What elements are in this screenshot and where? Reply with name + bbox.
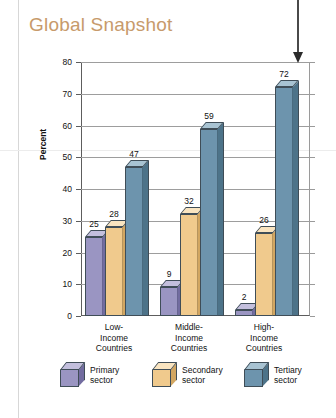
bar xyxy=(200,129,218,316)
x-axis-label-line: Countries xyxy=(221,343,307,354)
bar xyxy=(255,233,273,316)
x-axis-label-line: Countries xyxy=(71,343,157,354)
x-axis-group-label: High-IncomeCountries xyxy=(221,322,307,354)
bar-side-face xyxy=(217,122,224,316)
legend-label-line2: sector xyxy=(182,375,223,385)
y-tick-label: 40 xyxy=(32,184,72,194)
y-tick-mark-right xyxy=(310,221,315,222)
y-tick-mark-right xyxy=(310,126,315,127)
y-tick-mark xyxy=(76,157,81,158)
bar-value-label: 59 xyxy=(194,111,224,121)
y-tick-mark xyxy=(76,316,81,317)
callout-arrow-icon xyxy=(291,0,305,64)
y-tick-mark xyxy=(76,253,81,254)
y-tick-mark-right xyxy=(310,316,315,317)
legend-label: Primarysector xyxy=(90,365,119,385)
x-axis-label-line: Low- xyxy=(71,322,157,333)
bar-front-face xyxy=(200,129,218,316)
bar xyxy=(125,167,143,316)
y-tick-label: 10 xyxy=(32,279,72,289)
figure-caption-cropped xyxy=(40,411,320,418)
legend-label-line1: Primary xyxy=(90,365,119,375)
gridline xyxy=(81,62,310,63)
legend-label: Tertiarysector xyxy=(274,365,302,385)
y-tick-mark xyxy=(76,126,81,127)
legend-cube-front-face xyxy=(152,369,171,387)
bar-front-face xyxy=(235,310,253,316)
y-tick-mark-right xyxy=(310,94,315,95)
bar-front-face xyxy=(160,287,178,316)
page-edge-artifact xyxy=(18,0,19,418)
bar xyxy=(160,287,178,316)
bar xyxy=(85,237,103,316)
y-tick-mark xyxy=(76,284,81,285)
bar-front-face xyxy=(180,214,198,316)
legend-label-line2: sector xyxy=(90,375,119,385)
x-axis-group-label: Middle-IncomeCountries xyxy=(146,322,232,354)
bar-front-face xyxy=(85,237,103,316)
y-tick-mark xyxy=(76,62,81,63)
x-axis-label-line: Middle- xyxy=(146,322,232,333)
bar-front-face xyxy=(255,233,273,316)
x-axis-group-label: Low-IncomeCountries xyxy=(71,322,157,354)
x-axis-label-line: Income xyxy=(221,333,307,344)
x-axis-label-line: Income xyxy=(71,333,157,344)
x-axis-label-line: High- xyxy=(221,322,307,333)
bar-value-label: 47 xyxy=(119,149,149,159)
legend-item: Tertiarysector xyxy=(244,362,302,388)
y-tick-mark-right xyxy=(310,189,315,190)
bar-side-face xyxy=(292,80,299,316)
arrow-shaft xyxy=(297,0,299,55)
y-tick-label: 70 xyxy=(32,89,72,99)
legend-label-line2: sector xyxy=(274,375,302,385)
legend-cube-icon xyxy=(60,362,86,388)
x-axis-label-line: Countries xyxy=(146,343,232,354)
chart-title: Global Snapshot xyxy=(29,14,173,36)
y-tick-mark xyxy=(76,94,81,95)
legend-label-line1: Tertiary xyxy=(274,365,302,375)
y-tick-label: 50 xyxy=(32,152,72,162)
legend: PrimarysectorSecondarysectorTertiarysect… xyxy=(60,362,326,396)
y-tick-mark-right xyxy=(310,157,315,158)
bar xyxy=(105,227,123,316)
bar xyxy=(235,310,253,316)
arrow-head xyxy=(293,52,303,63)
legend-cube-front-face xyxy=(244,369,263,387)
legend-item: Secondarysector xyxy=(152,362,223,388)
bar xyxy=(180,214,198,316)
y-tick-label: 20 xyxy=(32,248,72,258)
y-tick-mark xyxy=(76,189,81,190)
legend-cube-icon xyxy=(244,362,270,388)
bar xyxy=(275,87,293,316)
legend-cube-icon xyxy=(152,362,178,388)
y-tick-label: 30 xyxy=(32,216,72,226)
legend-cube-front-face xyxy=(60,369,79,387)
y-tick-mark-right xyxy=(310,62,315,63)
bar-front-face xyxy=(125,167,143,316)
bar-value-label: 72 xyxy=(269,69,299,79)
y-tick-mark-right xyxy=(310,253,315,254)
y-tick-label: 60 xyxy=(32,121,72,131)
bar-side-face xyxy=(142,160,149,316)
plot-area: 01020304050607080 2528479325922672 xyxy=(81,62,310,316)
y-tick-label: 80 xyxy=(32,57,72,67)
x-axis-label-line: Income xyxy=(146,333,232,344)
y-tick-label: 0 xyxy=(32,311,72,321)
bar-front-face xyxy=(275,87,293,316)
bar-front-face xyxy=(105,227,123,316)
legend-label: Secondarysector xyxy=(182,365,223,385)
legend-label-line1: Secondary xyxy=(182,365,223,375)
y-tick-mark-right xyxy=(310,284,315,285)
legend-item: Primarysector xyxy=(60,362,119,388)
